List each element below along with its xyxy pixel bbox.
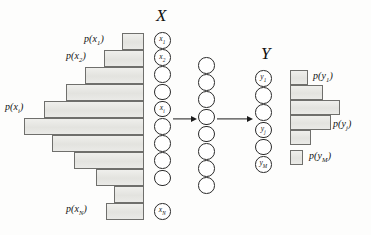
left-bar-label-p-x2: p(x2) [66, 50, 86, 63]
y-node-5[interactable] [255, 139, 272, 156]
x-node-1-label: x1 [159, 36, 165, 46]
arrow-shaft [217, 118, 248, 119]
left-bar-2 [104, 50, 144, 67]
left-bar-3 [85, 67, 144, 84]
x-node-4[interactable] [154, 84, 171, 101]
right-bar-2 [290, 85, 323, 100]
y-node-4-label: yj [261, 125, 266, 135]
y-node-1-label: y1 [260, 74, 266, 84]
left-bar-label-p-xi: p(xi) [5, 101, 23, 114]
y-node-1[interactable]: y1 [255, 70, 272, 87]
left-bar-5 [44, 101, 144, 118]
right-bar-label-p-yj: p(yj) [333, 118, 351, 131]
left-bar-9 [96, 169, 144, 186]
arrow-x-to-hidden [173, 114, 197, 124]
left-bar-11 [106, 203, 144, 220]
y-node-2[interactable] [255, 87, 272, 104]
hidden-node-5[interactable] [198, 126, 215, 143]
left-bar-10 [114, 186, 144, 203]
hidden-node-1[interactable] [198, 57, 215, 74]
information-channel-diagram: p(x1) p(x2) p(xi) p(xN) X x1 x2 xi xN [0, 0, 371, 235]
x-node-5-label: xi [160, 104, 165, 114]
arrow-head [247, 116, 253, 122]
left-bar-label-p-x1: p(x1) [84, 33, 104, 46]
left-bar-8 [74, 152, 144, 169]
arrow-head [191, 116, 197, 122]
arrow-hidden-to-y [217, 114, 253, 124]
x-node-7[interactable] [154, 135, 171, 152]
x-node-1[interactable]: x1 [154, 32, 171, 49]
hidden-node-6[interactable] [198, 143, 215, 160]
arrow-shaft [173, 118, 192, 119]
x-node-6[interactable] [154, 118, 171, 135]
x-node-8[interactable] [154, 152, 171, 169]
right-bar-1 [290, 70, 308, 85]
hidden-node-7[interactable] [198, 160, 215, 177]
left-bar-1 [122, 33, 144, 50]
x-node-2[interactable]: x2 [154, 49, 171, 66]
right-bar-3 [290, 100, 340, 115]
x-node-2-label: x2 [159, 53, 165, 63]
hidden-node-3[interactable] [198, 91, 215, 108]
hidden-node-8[interactable] [198, 177, 215, 194]
left-bar-6 [24, 118, 144, 135]
y-node-3[interactable] [255, 104, 272, 121]
hidden-node-2[interactable] [198, 74, 215, 91]
right-bar-6 [290, 150, 303, 165]
left-bar-4 [66, 84, 144, 101]
x-node-5[interactable]: xi [154, 101, 171, 118]
x-column-heading: X [156, 6, 166, 26]
right-bar-label-p-yM: p(yM) [309, 150, 331, 163]
y-column-heading: Y [261, 44, 270, 64]
right-bar-5 [290, 130, 311, 145]
right-bar-label-p-y1: p(y1) [313, 70, 333, 83]
right-bar-4 [290, 115, 331, 130]
x-node-3[interactable] [154, 66, 171, 83]
x-node-9[interactable] [154, 170, 171, 187]
left-bar-7 [52, 135, 144, 152]
y-node-6[interactable]: yM [255, 156, 272, 173]
x-node-10[interactable]: xN [154, 203, 171, 220]
x-node-10-label: xN [159, 207, 166, 217]
left-bar-label-p-xN: p(xN) [66, 203, 87, 216]
y-node-4[interactable]: yj [255, 122, 272, 139]
hidden-node-4[interactable] [198, 109, 215, 126]
y-node-6-label: yM [259, 160, 267, 170]
